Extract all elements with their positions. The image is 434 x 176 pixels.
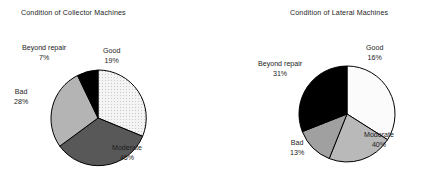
lateral-good-name: Good xyxy=(366,44,383,52)
collector-good-name: Good xyxy=(103,47,120,55)
collector-label-bad: Bad 28% xyxy=(14,88,28,107)
lateral-label-moderate: Moderate 40% xyxy=(364,131,394,150)
collector-bad-name: Bad xyxy=(15,88,28,96)
lateral-label-beyond-repair: Beyond repair 31% xyxy=(258,60,302,79)
collector-pie-wrapper xyxy=(0,0,217,176)
collector-moderate-value: 46% xyxy=(112,154,142,164)
collector-bad-value: 28% xyxy=(14,98,28,108)
collector-good-value: 19% xyxy=(103,57,120,67)
lateral-bad-value: 13% xyxy=(290,149,304,159)
lateral-good-value: 16% xyxy=(366,54,383,64)
lateral-moderate-name: Moderate xyxy=(364,131,394,139)
collector-chart-panel: Condition of Collector Machines Beyond r… xyxy=(0,0,217,176)
lateral-beyond-repair-name: Beyond repair xyxy=(258,60,302,68)
collector-beyond-repair-value: 7% xyxy=(22,54,66,64)
lateral-moderate-value: 40% xyxy=(364,141,394,151)
lateral-label-bad: Bad 13% xyxy=(290,139,304,158)
collector-label-good: Good 19% xyxy=(103,47,120,66)
collector-moderate-name: Moderate xyxy=(112,144,142,152)
lateral-beyond-repair-value: 31% xyxy=(258,70,302,80)
lateral-label-good: Good 16% xyxy=(366,44,383,63)
collector-beyond-repair-name: Beyond repair xyxy=(22,44,66,52)
collector-label-moderate: Moderate 46% xyxy=(112,144,142,163)
lateral-bad-name: Bad xyxy=(291,139,304,147)
lateral-pie-wrapper xyxy=(217,0,434,176)
collector-label-beyond-repair: Beyond repair 7% xyxy=(22,44,66,63)
